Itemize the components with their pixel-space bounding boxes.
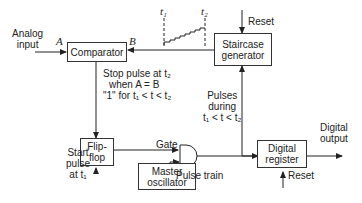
gate-label: Gate	[156, 139, 178, 150]
flipflop-label-1: Flip-	[87, 141, 106, 152]
staircase-waveform	[164, 28, 205, 45]
register-label-2: register	[265, 154, 298, 165]
digital-output-line2: output	[320, 133, 348, 144]
pulse-train-label: Pulse train	[176, 170, 223, 181]
pulses-during-label: Pulses during t₁ < t < t₂	[203, 90, 241, 123]
analog-input-line2: input	[12, 39, 43, 50]
digital-register-block: Digital register	[257, 140, 307, 168]
staircase-generator-block: Staircase generator	[214, 33, 272, 66]
pulses-line1: Pulses	[203, 90, 241, 101]
stop-line3: "1" for t₁ < t < t₂	[103, 90, 171, 101]
analog-input-label: Analog input	[12, 28, 43, 50]
digital-output-label: Digital output	[320, 122, 348, 144]
reset-register-label: Reset	[288, 170, 314, 181]
t1-label: t₁	[160, 6, 167, 17]
staircase-label-2: generator	[222, 50, 265, 61]
port-b-label: B	[129, 36, 136, 47]
flipflop-label-2: flop	[89, 152, 105, 163]
comparator-label: Comparator	[71, 47, 124, 58]
analog-input-line1: Analog	[12, 28, 43, 39]
reset-staircase-label: Reset	[248, 16, 274, 27]
stop-line2: when A = B	[103, 79, 171, 90]
digital-output-line1: Digital	[320, 122, 348, 133]
pulses-line3: t₁ < t < t₂	[203, 112, 241, 123]
start-line3: at t₁	[66, 169, 90, 180]
start-line2: pulse	[66, 158, 90, 169]
start-line1: Start	[66, 147, 90, 158]
register-label-1: Digital	[268, 143, 296, 154]
pulses-line2: during	[203, 101, 241, 112]
comparator-block: Comparator	[67, 42, 127, 62]
staircase-label-1: Staircase	[222, 39, 264, 50]
port-a-label: A	[56, 36, 63, 47]
start-pulse-label: Start pulse at t₁	[66, 147, 90, 180]
stop-pulse-label: Stop pulse at t₂ when A = B "1" for t₁ <…	[103, 68, 171, 101]
t2-label: t₂	[201, 6, 208, 17]
stop-line1: Stop pulse at t₂	[103, 68, 171, 79]
